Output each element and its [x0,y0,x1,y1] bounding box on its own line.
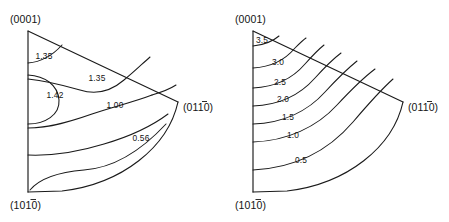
contour-labels-right: 3.5 3.0 2.5 2.0 1.5 1.0 0.5 [256,35,307,165]
right-label-suffix: 0) [204,101,214,113]
contour-labels-left: 1.35 1.35 1.42 1.00 0.56 [35,51,149,143]
contour-label: 3.5 [256,35,268,45]
bottom-label-suffix: 0) [256,199,266,211]
inverse-pole-figure-right: 3.5 3.0 2.5 2.0 1.5 1.0 0.5 (0001) (1010… [225,0,449,222]
edge-arc [28,102,178,192]
contour-label: 1.35 [88,73,105,83]
bottom-label-prefix: (10 [235,199,251,211]
contour-label: 3.0 [272,57,284,67]
contour-label: 0.56 [132,133,149,143]
corner-label-basal: (0001) [235,13,266,25]
contour-label: 1.0 [287,130,299,140]
corner-label-prismatic-right: (0110) [183,101,213,113]
figure-root: 1.35 1.35 1.42 1.00 0.56 (0001) (1010) (… [0,0,449,222]
contour-label: 1.00 [106,100,123,110]
corner-label-basal: (0001) [10,13,41,25]
contour-line-1p5 [253,61,357,124]
corner-label-prismatic-right: (0110) [408,101,438,113]
svg-text:(0110): (0110) [183,101,213,113]
right-label-prefix: (01 [408,101,424,113]
edge-arc [253,102,403,192]
bottom-label-prefix: (10 [10,199,26,211]
right-label-prefix: (01 [183,101,199,113]
contour-line-5 [152,85,176,95]
contour-line-2p0 [253,53,341,106]
contour-label: 0.5 [295,155,307,165]
contour-label: 1.35 [35,51,52,61]
contour-lines-right [253,36,393,170]
contour-label: 1.42 [46,90,63,100]
contour-line-0p5 [253,79,393,170]
corner-label-prismatic-bottom: (1010) [235,199,266,211]
contour-lines-left [28,45,176,190]
svg-text:(0110): (0110) [408,101,438,113]
contour-label: 2.0 [277,94,289,104]
bottom-label-suffix: 0) [31,199,41,211]
svg-text:(1010): (1010) [235,199,266,211]
right-label-suffix: 0) [429,101,439,113]
contour-label: 1.5 [282,112,294,122]
contour-label: 2.5 [274,77,286,87]
svg-text:(1010): (1010) [10,199,41,211]
corner-label-prismatic-bottom: (1010) [10,199,41,211]
inverse-pole-figure-left: 1.35 1.35 1.42 1.00 0.56 (0001) (1010) (… [0,0,224,222]
